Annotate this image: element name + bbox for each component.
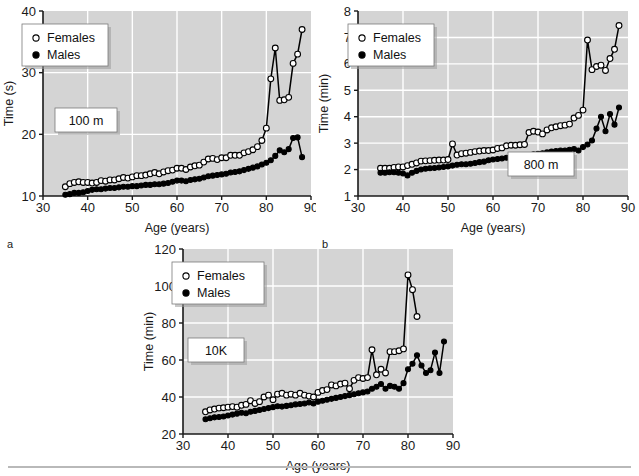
svg-text:80: 80	[162, 316, 176, 331]
legend: FemalesMales	[22, 24, 111, 69]
legend-label-males: Males	[373, 48, 406, 62]
svg-text:40: 40	[396, 200, 410, 215]
svg-text:60: 60	[486, 200, 500, 215]
svg-text:30: 30	[176, 438, 190, 453]
svg-text:10: 10	[22, 189, 36, 204]
svg-text:40: 40	[80, 200, 94, 215]
svg-text:50: 50	[125, 200, 139, 215]
y-axis-label: Time (s)	[2, 81, 16, 126]
svg-text:60: 60	[311, 438, 325, 453]
distance-label-text: 10K	[205, 344, 228, 358]
svg-text:90: 90	[446, 438, 460, 453]
legend-label-females: Females	[47, 31, 95, 45]
legend: FemalesMales	[348, 24, 437, 69]
svg-text:30: 30	[36, 200, 50, 215]
legend-label-females: Females	[373, 31, 421, 45]
svg-text:80: 80	[401, 438, 415, 453]
legend-label-males: Males	[47, 48, 80, 62]
panel-a: 3040506070809010203040Age (years)Time (s…	[0, 0, 316, 238]
chart-b: 3040506070809012345678Age (years)Time (m…	[316, 0, 639, 238]
distance-label-box: 10K	[188, 338, 247, 365]
x-axis-label: Age (years)	[461, 221, 526, 235]
svg-text:70: 70	[531, 200, 545, 215]
svg-text:3: 3	[344, 136, 351, 151]
chart-a: 3040506070809010203040Age (years)Time (s…	[0, 0, 316, 238]
panel-b: 3040506070809012345678Age (years)Time (m…	[316, 0, 639, 238]
svg-text:60: 60	[170, 200, 184, 215]
chart-c: 3040506070809020406080100120Age (years)T…	[140, 238, 470, 476]
svg-text:2: 2	[344, 162, 351, 177]
y-axis-label: Time (min)	[317, 74, 331, 133]
distance-label-box: 100 m	[55, 108, 120, 135]
distance-label-text: 100 m	[69, 114, 104, 128]
x-axis-label: Age (years)	[145, 221, 210, 235]
svg-text:8: 8	[344, 4, 351, 19]
panel-c: 3040506070809020406080100120Age (years)T…	[140, 238, 470, 476]
legend-label-females: Females	[197, 269, 245, 283]
svg-text:90: 90	[304, 200, 316, 215]
footer-divider	[8, 466, 631, 468]
svg-text:1: 1	[344, 189, 351, 204]
figure-container: 3040506070809010203040Age (years)Time (s…	[0, 0, 639, 476]
svg-text:70: 70	[214, 200, 228, 215]
svg-text:40: 40	[22, 4, 36, 19]
svg-text:30: 30	[351, 200, 365, 215]
svg-text:40: 40	[162, 390, 176, 405]
svg-text:20: 20	[22, 127, 36, 142]
svg-text:90: 90	[621, 200, 635, 215]
legend: FemalesMales	[172, 262, 267, 307]
panel-letter-a: a	[7, 238, 13, 250]
svg-text:20: 20	[162, 427, 176, 442]
svg-text:40: 40	[221, 438, 235, 453]
svg-text:50: 50	[441, 200, 455, 215]
svg-text:80: 80	[259, 200, 273, 215]
svg-text:50: 50	[266, 438, 280, 453]
svg-text:4: 4	[344, 109, 351, 124]
distance-label-box: 800 m	[508, 152, 577, 179]
y-axis-label: Time (min)	[142, 312, 156, 371]
distance-label-text: 800 m	[524, 158, 559, 172]
svg-text:60: 60	[162, 353, 176, 368]
svg-text:70: 70	[356, 438, 370, 453]
svg-text:80: 80	[576, 200, 590, 215]
svg-text:120: 120	[154, 242, 176, 257]
legend-label-males: Males	[197, 286, 230, 300]
svg-text:5: 5	[344, 83, 351, 98]
